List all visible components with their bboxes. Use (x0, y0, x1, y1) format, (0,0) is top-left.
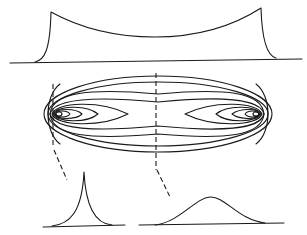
bottom-right-profile (139, 197, 284, 225)
contour-left-lobe-1 (52, 104, 128, 124)
center-section-leader (157, 170, 170, 197)
contour-map (44, 76, 272, 152)
diagram-canvas (0, 0, 307, 235)
contour-right-lobe-2 (216, 107, 261, 121)
contour-left-core (56, 112, 62, 116)
top-baseline (10, 59, 302, 63)
contour-left-lobe-2 (53, 107, 98, 121)
contour-right-lobe-3 (232, 110, 260, 119)
contour-2 (48, 82, 268, 146)
end-section-leader (54, 150, 67, 180)
contour-left-lobe-3 (54, 110, 82, 119)
bottom-left-profile (43, 172, 125, 227)
top-profile-curve (35, 8, 276, 62)
contour-right-lobe-1 (185, 104, 262, 124)
contour-right-core (253, 112, 259, 116)
bell-profile-curve (155, 197, 265, 225)
top-profile (10, 8, 302, 63)
contour-outer (44, 76, 272, 152)
cusp-profile-curve (52, 172, 112, 226)
